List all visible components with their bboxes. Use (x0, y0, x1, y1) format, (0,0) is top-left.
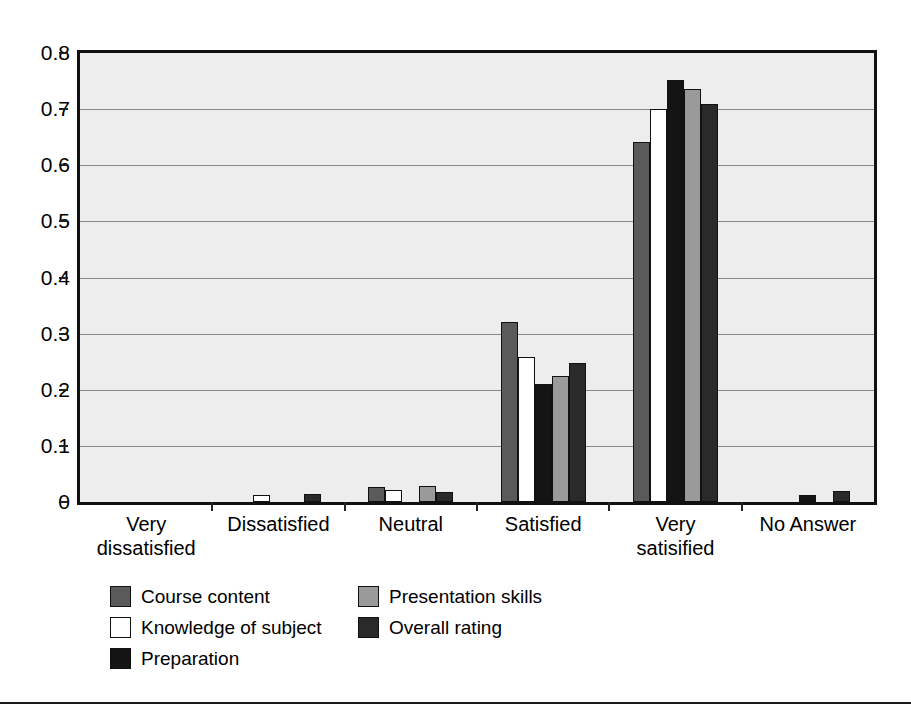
x-axis-tick-mark (344, 502, 346, 511)
category-label-line: No Answer (742, 512, 874, 536)
bar (253, 495, 270, 502)
x-axis-category-label: Dissatisfied (212, 512, 344, 536)
bar-group (80, 53, 212, 502)
bar (436, 492, 453, 502)
bar (799, 495, 816, 502)
legend-label: Preparation (141, 646, 239, 671)
bar (633, 142, 650, 502)
bar (304, 494, 321, 502)
x-axis-category-label: No Answer (742, 512, 874, 536)
y-axis-tick-mark (59, 52, 68, 54)
category-label-line: satisified (609, 536, 741, 560)
chart-figure: 0.80.70.60.50.40.30.20.10 Verydissatisfi… (0, 0, 911, 719)
x-axis-category-label: Satisfied (477, 512, 609, 536)
x-axis-category-label: Verydissatisfied (80, 512, 212, 560)
bar-group (212, 53, 344, 502)
x-axis-tick-mark (741, 502, 743, 511)
x-axis-tick-mark (608, 502, 610, 511)
bar-group (477, 53, 609, 502)
bar-group (345, 53, 477, 502)
bar (701, 104, 718, 502)
bottom-divider-rule (0, 702, 911, 704)
bar (650, 109, 667, 502)
bar (552, 376, 569, 502)
plot-frame (77, 50, 877, 505)
bar (368, 487, 385, 502)
category-label-line: Satisfied (477, 512, 609, 536)
bar (684, 89, 701, 502)
bar (501, 322, 518, 502)
y-axis-tick-mark (59, 108, 68, 110)
legend-label: Presentation skills (389, 584, 542, 609)
y-axis-tick-mark (59, 164, 68, 166)
legend-swatch-icon (110, 586, 131, 607)
legend-swatch-icon (110, 617, 131, 638)
bar (535, 384, 552, 502)
bar (667, 80, 684, 502)
plot-area (80, 53, 874, 502)
chart-legend: Course contentKnowledge of subjectPrepar… (110, 584, 580, 676)
bar (833, 491, 850, 502)
bar (419, 486, 436, 502)
legend-swatch-icon (358, 586, 379, 607)
category-label-line: Dissatisfied (212, 512, 344, 536)
legend-label: Knowledge of subject (141, 615, 322, 640)
x-axis-category-label: Verysatisified (609, 512, 741, 560)
legend-swatch-icon (110, 648, 131, 669)
x-axis-category-label: Neutral (345, 512, 477, 536)
y-axis-tick-mark (59, 220, 68, 222)
y-axis-tick-mark (59, 445, 68, 447)
x-axis-tick-mark (211, 502, 213, 511)
category-label-line: Neutral (345, 512, 477, 536)
bar (518, 357, 535, 502)
y-axis-tick-mark (59, 333, 68, 335)
bar-group (742, 53, 874, 502)
legend-label: Course content (141, 584, 270, 609)
legend-label: Overall rating (389, 615, 502, 640)
category-label-line: dissatisfied (80, 536, 212, 560)
category-label-line: Very (609, 512, 741, 536)
legend-swatch-icon (358, 617, 379, 638)
bar (385, 490, 402, 502)
y-axis-tick-mark (59, 277, 68, 279)
y-axis: 0.80.70.60.50.40.30.20.10 (0, 50, 70, 505)
x-axis-tick-mark (476, 502, 478, 511)
y-axis-tick-mark (59, 501, 68, 503)
x-axis-category-labels: VerydissatisfiedDissatisfiedNeutralSatis… (77, 512, 877, 572)
category-label-line: Very (80, 512, 212, 536)
bar (569, 363, 586, 502)
y-axis-tick-mark (59, 389, 68, 391)
bar-group (609, 53, 741, 502)
